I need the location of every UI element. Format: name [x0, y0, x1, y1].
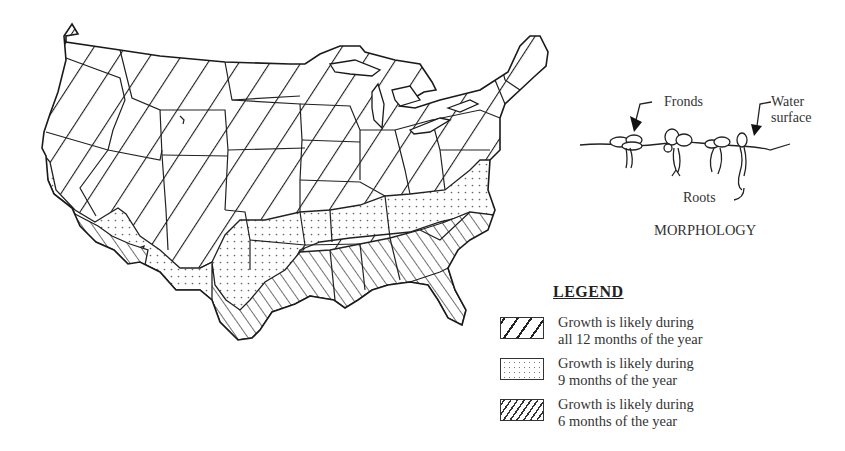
legend-item-12-months: Growth is likely during all 12 months of…: [500, 314, 740, 354]
water-label-line2: surface: [771, 110, 811, 126]
fronds-label: Fronds: [664, 94, 703, 110]
morphology-drawing: [580, 102, 790, 200]
legend-item-line2: 9 months of the year: [558, 372, 694, 389]
figure: Fronds Water surface Roots MORPHOLOGY LE…: [0, 0, 845, 451]
legend-item-line1: Growth is likely during: [558, 396, 694, 413]
legend-item-line1: Growth is likely during: [558, 314, 703, 331]
wide-hatch-swatch-icon: [500, 317, 544, 339]
legend-item-line2: 6 months of the year: [558, 413, 694, 430]
legend-item-9-months: Growth is likely during 9 months of the …: [500, 355, 740, 395]
legend-item-line2: all 12 months of the year: [558, 331, 703, 348]
morphology-title: MORPHOLOGY: [654, 222, 756, 238]
dotted-swatch-icon: [500, 358, 544, 380]
legend-item-6-months: Growth is likely during 6 months of the …: [500, 396, 740, 436]
water-label-line1: Water: [771, 94, 804, 110]
roots-label: Roots: [683, 190, 716, 206]
legend-item-line1: Growth is likely during: [558, 355, 694, 372]
dense-hatch-swatch-icon: [500, 399, 544, 421]
legend-title: LEGEND: [553, 283, 624, 301]
